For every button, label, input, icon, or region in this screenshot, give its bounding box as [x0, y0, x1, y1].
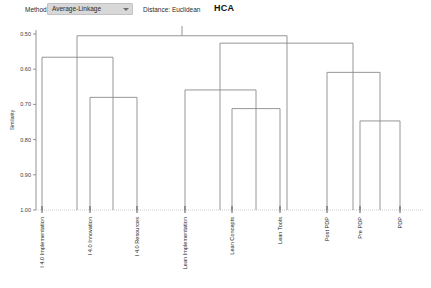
hca-dendrogram-app: Method: Average-Linkage Distance: Euclid…	[0, 0, 431, 288]
method-select-value: Average-Linkage	[52, 5, 101, 12]
y-tick-label: 0.90	[20, 172, 31, 178]
x-axis-label: I 4.0 Innovation	[87, 217, 93, 255]
dendrogram-link	[90, 97, 137, 210]
dendrogram-leaves	[42, 206, 400, 213]
dendrogram-link	[77, 36, 287, 210]
x-axis-label: Post PDP	[324, 217, 330, 242]
x-axis-label: I 4.0 Implementation	[39, 217, 45, 268]
dendrogram-svg: 0.500.600.700.800.901.00 Similarity I 4.…	[0, 20, 431, 288]
y-tick-label: 0.60	[20, 66, 31, 72]
dendrogram-link	[327, 72, 380, 210]
x-axis-label: Pre PDP	[357, 217, 363, 239]
toolbar: Method: Average-Linkage Distance: Euclid…	[0, 0, 431, 20]
x-axis-label: Lean Concepts	[229, 217, 235, 255]
y-axis-ticks: 0.500.600.700.800.901.00	[20, 31, 36, 213]
y-tick-label: 0.80	[20, 137, 31, 143]
chevron-down-icon	[123, 8, 129, 11]
plot-area: 0.500.600.700.800.901.00 Similarity I 4.…	[0, 20, 431, 288]
dendrogram-link	[185, 90, 256, 210]
dendrogram-link	[220, 43, 353, 210]
y-axis-label: Similarity	[9, 109, 15, 130]
page-title: HCA	[214, 3, 234, 13]
x-axis-label: Lean Tools	[277, 217, 283, 244]
x-axis-label: PDP	[397, 217, 403, 229]
x-axis-labels: I 4.0 ImplementationI 4.0 InnovationI 4.…	[39, 217, 403, 270]
y-tick-label: 1.00	[20, 207, 31, 213]
x-axis-label: I 4.0 Resources	[134, 217, 140, 256]
y-tick-label: 0.70	[20, 101, 31, 107]
dendrogram-links	[42, 26, 400, 210]
method-select[interactable]: Average-Linkage	[47, 3, 133, 15]
x-axis-label: Lean Implementation	[182, 217, 188, 269]
y-tick-label: 0.50	[20, 31, 31, 37]
distance-label: Distance: Euclidean	[143, 5, 200, 15]
method-label: Method:	[25, 5, 49, 15]
dendrogram-link	[42, 57, 113, 210]
